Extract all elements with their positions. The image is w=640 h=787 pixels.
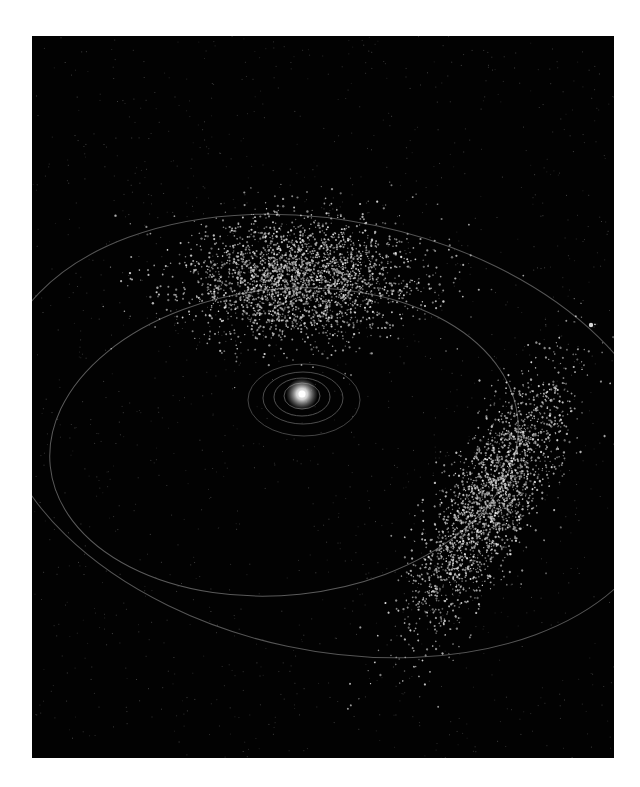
- solar-system-scene: [32, 36, 614, 758]
- l5-trojan-swarm: [309, 274, 614, 758]
- space-visualization: [32, 36, 614, 758]
- sun: [286, 378, 318, 410]
- main-belt-orbit: [34, 265, 533, 618]
- jupiter-orbit: [32, 155, 614, 717]
- sun-core: [299, 391, 306, 398]
- orbit-lines: [32, 155, 614, 717]
- l4-trojan-swarm: [103, 181, 525, 388]
- jupiter-planet-dot: [589, 323, 593, 327]
- background-noise-stars: [33, 36, 614, 758]
